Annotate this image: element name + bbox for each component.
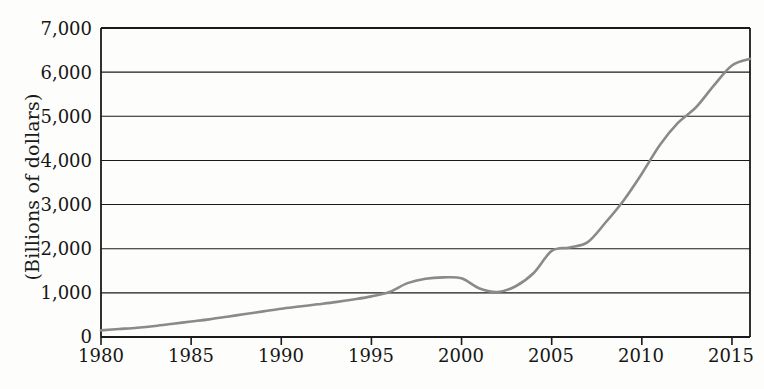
plot-area: [0, 0, 764, 389]
plot-frame: [101, 28, 750, 337]
gridlines: [101, 28, 750, 293]
data-series-line: [101, 59, 750, 330]
x-axis-ticks: [101, 337, 732, 345]
line-chart-figure: (Billions of dollars) 7,000 6,000 5,000 …: [0, 0, 764, 389]
